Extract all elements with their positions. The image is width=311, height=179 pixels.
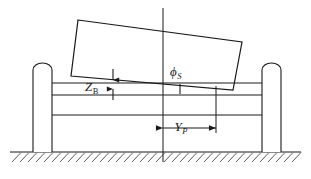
label-zb: ZB	[85, 79, 99, 96]
ground-group	[10, 152, 301, 162]
label-zb-subscript: B	[93, 86, 99, 96]
schematic-drawing: ZB ϕS YP	[0, 0, 311, 179]
svg-text:YP: YP	[175, 119, 188, 136]
svg-text:ZB: ZB	[85, 79, 99, 96]
label-yp-subscript: P	[181, 126, 187, 136]
label-yp: YP	[175, 119, 188, 136]
ground-hatching	[12, 153, 301, 163]
label-phi-symbol: ϕ	[170, 64, 177, 79]
tilted-body	[71, 20, 242, 90]
right-post	[262, 63, 281, 152]
figure-canvas: ZB ϕS YP	[0, 0, 311, 179]
left-post	[33, 63, 52, 152]
